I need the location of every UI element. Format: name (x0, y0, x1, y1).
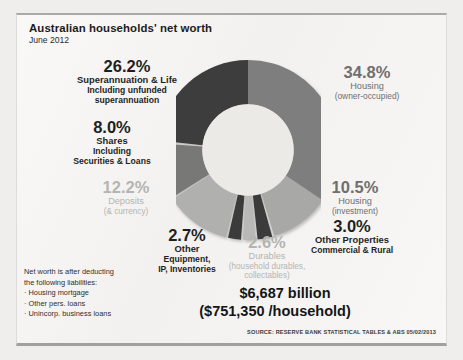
label-housing-owner-pct: 34.8% (305, 63, 429, 81)
label-shares: 8.0% Shares Including Securities & Loans (53, 118, 171, 166)
label-housing-investment-pct: 10.5% (300, 178, 410, 196)
label-other-properties: 3.0% Other Properties Commercial & Rural (288, 217, 416, 256)
label-shares-pct: 8.0% (53, 118, 171, 136)
label-deposits-line2: (& currency) (81, 207, 171, 216)
note-line-1: Net worth is after deducting (24, 267, 199, 278)
label-other-properties-pct: 3.0% (288, 217, 416, 235)
label-deposits-pct: 12.2% (81, 178, 171, 196)
page-subtitle: June 2012 (29, 35, 69, 45)
label-other-properties-line2: Commercial & Rural (288, 246, 416, 256)
label-superannuation-line3: superannuation (52, 96, 202, 106)
infographic-page: Australian households' net worth June 20… (0, 0, 463, 360)
label-shares-line3: Securities & Loans (53, 157, 171, 167)
label-housing-investment: 10.5% Housing (investment) (300, 178, 410, 216)
total-amount: $6,687 billion (165, 285, 405, 301)
label-deposits: 12.2% Deposits (& currency) (81, 178, 171, 216)
label-durables-line2: (household durables, (215, 262, 319, 271)
donut-hole (202, 104, 293, 195)
page-title: Australian households' net worth (29, 22, 212, 34)
label-housing-owner-line2: (owner-occupied) (305, 92, 429, 101)
label-deposits-line1: Deposits (81, 196, 171, 206)
label-housing-owner-occupied: 34.8% Housing (owner-occupied) (305, 63, 429, 101)
label-superannuation-pct: 26.2% (52, 57, 202, 75)
total-per-household: ($751,350 /household) (155, 303, 395, 319)
label-durables-line3: collectables) (215, 271, 319, 280)
label-housing-investment-line2: (investment) (300, 207, 410, 216)
source-note: SOURCE: RESERVE BANK STATISTICAL TABLES … (247, 329, 436, 335)
label-superannuation: 26.2% Superannuation & Life Including un… (52, 57, 202, 105)
